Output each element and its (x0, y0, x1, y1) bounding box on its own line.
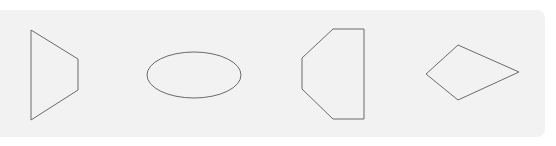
shapes-canvas (0, 0, 556, 146)
kite-shape (426, 45, 519, 100)
ellipse-shape (147, 52, 241, 98)
truncated-pentagon-shape (302, 29, 364, 119)
trapezoid-shape (31, 30, 78, 120)
